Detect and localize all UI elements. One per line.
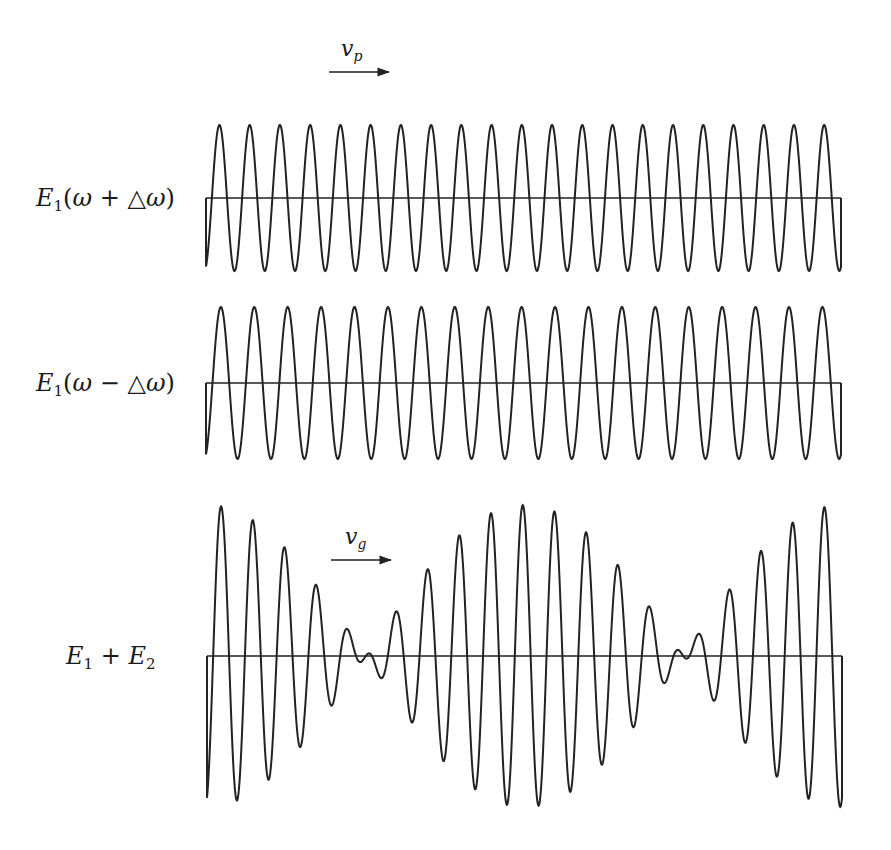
omega-symbol: ω — [146, 184, 166, 212]
wave-e1-omega-minus-delta-omega — [206, 307, 841, 459]
wave-minus-label-name: E — [36, 369, 54, 397]
sum-label-e1: E — [66, 642, 84, 670]
phase-velocity-label: vp — [341, 38, 362, 60]
delta-symbol: △ — [127, 184, 145, 212]
wave-sum-e1-plus-e2 — [207, 505, 842, 807]
operator-plus: + — [92, 184, 127, 212]
sum-label-sub1: 1 — [84, 655, 94, 673]
operator-plus: + — [93, 642, 128, 670]
wave-minus-label: E1(ω − △ω) — [36, 371, 175, 395]
group-velocity-subscript: g — [357, 536, 366, 552]
sum-label-e2: E — [128, 642, 146, 670]
delta-symbol: △ — [127, 369, 145, 397]
wave-sum-label: E1 + E2 — [66, 644, 156, 668]
beat-wave-diagram — [0, 0, 891, 850]
group-velocity-symbol: v — [345, 524, 357, 549]
omega-symbol: ω — [72, 369, 92, 397]
omega-symbol: ω — [146, 369, 166, 397]
phase-velocity-subscript: p — [353, 48, 362, 64]
paren-close: ) — [165, 369, 174, 397]
operator-minus: − — [92, 369, 127, 397]
wave-plus-label-sub: 1 — [54, 197, 64, 215]
phase-velocity-symbol: v — [341, 36, 353, 61]
paren-close: ) — [165, 184, 174, 212]
group-velocity-label: vg — [345, 526, 366, 548]
omega-symbol: ω — [72, 184, 92, 212]
wave-e1-omega-plus-delta-omega — [206, 125, 841, 271]
wave-plus-label-name: E — [36, 184, 54, 212]
sum-label-sub2: 2 — [146, 655, 156, 673]
wave-plus-label: E1(ω + △ω) — [36, 186, 175, 210]
wave-minus-label-sub: 1 — [54, 382, 64, 400]
